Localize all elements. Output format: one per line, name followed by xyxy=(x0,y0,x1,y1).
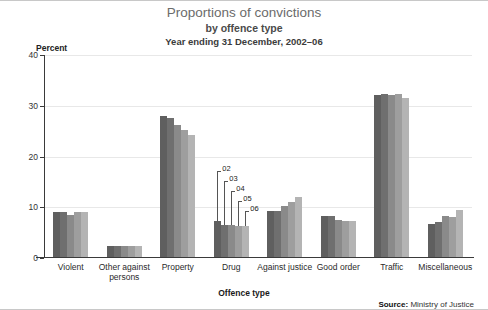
annotation-elbow xyxy=(238,201,242,202)
bar[interactable] xyxy=(67,215,74,258)
bar[interactable] xyxy=(274,211,281,258)
bar[interactable] xyxy=(242,226,249,258)
y-tick-mark xyxy=(40,258,44,259)
bar[interactable] xyxy=(295,197,302,258)
bar-group xyxy=(258,55,312,258)
series-annotation-03: 03 xyxy=(229,174,237,183)
annotation-leader-line xyxy=(224,181,225,225)
bar-group-bars xyxy=(151,55,205,258)
bar[interactable] xyxy=(449,217,456,258)
bar[interactable] xyxy=(349,221,356,258)
bar[interactable] xyxy=(81,212,88,258)
chart-title: Proportions of convictions xyxy=(0,5,488,21)
series-annotation-02: 02 xyxy=(222,164,230,173)
bar[interactable] xyxy=(388,95,395,258)
bar-group xyxy=(312,55,366,258)
y-tick-label: 30 xyxy=(8,101,38,111)
bar[interactable] xyxy=(74,212,81,258)
bar[interactable] xyxy=(288,202,295,258)
bar[interactable] xyxy=(267,211,274,258)
bar-group xyxy=(419,55,473,258)
bar[interactable] xyxy=(167,118,174,258)
bar-group-bars xyxy=(44,55,98,258)
bar[interactable] xyxy=(374,95,381,258)
bar[interactable] xyxy=(402,98,409,258)
bar[interactable] xyxy=(381,94,388,258)
bar-group xyxy=(365,55,419,258)
bar[interactable] xyxy=(235,226,242,258)
bar-group-bars xyxy=(312,55,366,258)
y-tick-label: 20 xyxy=(8,152,38,162)
bar-group-bars xyxy=(205,55,259,258)
annotation-elbow xyxy=(245,211,249,212)
series-annotation-06: 06 xyxy=(250,204,258,213)
bar[interactable] xyxy=(160,116,167,258)
x-tick-label: Miscellaneous xyxy=(413,262,479,272)
y-axis-title: Percent xyxy=(36,43,67,53)
bar-group-bars xyxy=(258,55,312,258)
bar[interactable] xyxy=(395,94,402,258)
bar[interactable] xyxy=(221,225,228,258)
chart-subtitle: by offence type xyxy=(0,21,488,35)
bar-group xyxy=(205,55,259,258)
series-annotation-05: 05 xyxy=(243,194,251,203)
bar[interactable] xyxy=(321,216,328,258)
source-label: Source: xyxy=(378,300,408,309)
y-tick-mark xyxy=(40,106,44,107)
bar[interactable] xyxy=(342,221,349,258)
title-block: Proportions of convictions by offence ty… xyxy=(0,5,488,48)
plot-area xyxy=(44,55,472,258)
bar[interactable] xyxy=(53,212,60,258)
chart-date-range: Year ending 31 December, 2002–06 xyxy=(0,35,488,48)
annotation-leader-line xyxy=(217,171,218,221)
bar-group xyxy=(44,55,98,258)
bar[interactable] xyxy=(328,216,335,258)
chart-figure: Proportions of convictions by offence ty… xyxy=(0,0,488,310)
annotation-elbow xyxy=(217,171,221,172)
annotation-elbow xyxy=(231,191,235,192)
bar[interactable] xyxy=(188,135,195,258)
bar-group-bars xyxy=(365,55,419,258)
bar-group-bars xyxy=(419,55,473,258)
y-tick-label: 40 xyxy=(8,50,38,60)
bar-group xyxy=(151,55,205,258)
annotation-elbow xyxy=(224,181,228,182)
series-annotation-04: 04 xyxy=(236,184,244,193)
y-axis-line xyxy=(44,55,45,258)
annotation-leader-line xyxy=(231,191,232,225)
annotation-leader-line xyxy=(245,211,246,226)
y-tick-mark xyxy=(40,207,44,208)
source-note: Source: Ministry of Justice xyxy=(378,300,474,309)
x-axis-line xyxy=(36,257,474,258)
bar[interactable] xyxy=(435,222,442,258)
bar[interactable] xyxy=(281,206,288,258)
bar[interactable] xyxy=(228,225,235,258)
bar[interactable] xyxy=(442,216,449,258)
bar[interactable] xyxy=(428,224,435,258)
x-axis-title: Offence type xyxy=(0,288,488,298)
bar[interactable] xyxy=(214,221,221,258)
bar-group xyxy=(98,55,152,258)
bar[interactable] xyxy=(60,212,67,258)
y-tick-mark xyxy=(40,157,44,158)
bar[interactable] xyxy=(335,220,342,258)
y-tick-label: 0 xyxy=(8,253,38,263)
annotation-leader-line xyxy=(238,201,239,226)
source-value: Ministry of Justice xyxy=(410,300,474,309)
bar[interactable] xyxy=(456,210,463,258)
y-tick-mark xyxy=(40,55,44,56)
bar[interactable] xyxy=(181,130,188,258)
bar[interactable] xyxy=(174,125,181,258)
bar-group-bars xyxy=(98,55,152,258)
y-tick-label: 10 xyxy=(8,202,38,212)
